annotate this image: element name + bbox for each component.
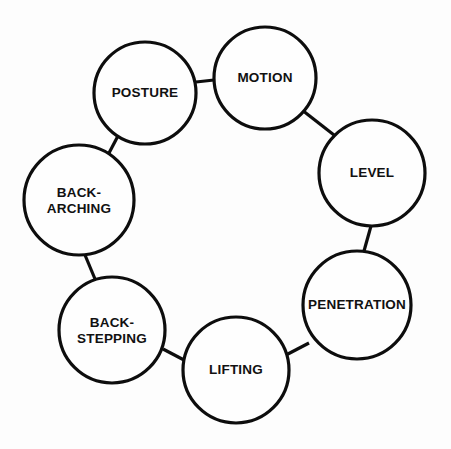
cycle-diagram: POSTUREMOTIONLEVELPENETRATIONLIFTINGBACK… [0,0,451,449]
node-circle-back-arching[interactable] [24,145,134,255]
node-circle-lifting[interactable] [183,317,289,423]
node-circle-level[interactable] [319,120,425,226]
node-circle-penetration[interactable] [303,251,411,359]
connector-posture-to-motion [196,80,214,82]
node-circle-motion[interactable] [214,27,316,129]
node-circle-posture[interactable] [94,42,196,144]
node-circle-back-stepping[interactable] [59,277,165,383]
cycle-diagram-canvas [0,0,451,449]
